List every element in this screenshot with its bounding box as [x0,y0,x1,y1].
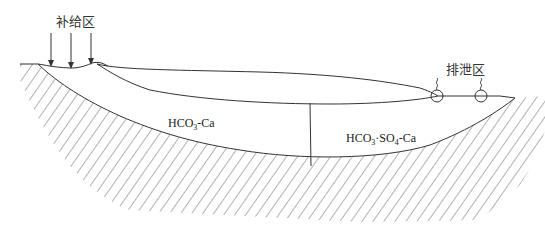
base-aquiclude-layer [0,0,545,229]
ground-surface [20,62,515,98]
spring-icon [431,78,443,102]
recharge-arrows [48,33,94,69]
arrow-down-icon [88,33,94,65]
upper-aquitard-lens [97,64,438,104]
spring-icon [475,78,487,102]
water-type-hco3-ca-label: HCO3-Ca [168,116,215,132]
arrow-down-icon [48,33,54,67]
recharge-zone-label: 补给区 [56,14,95,29]
discharge-zone-label: 排泄区 [446,62,485,77]
groundwater-flow-diagram: 补给区 排泄区 HCO3-Ca HCO3·SO4-Ca [0,0,545,229]
water-type-hco3-so4-ca-label: HCO3·SO4-Ca [346,131,417,147]
arrow-down-icon [68,33,74,69]
